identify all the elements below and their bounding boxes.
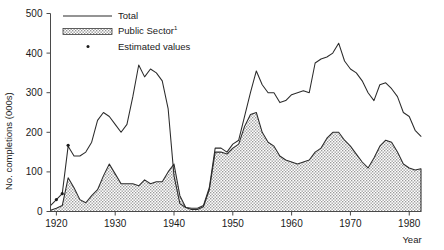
y-axis-tick-label: 0 xyxy=(37,206,43,217)
estimated-value-dot xyxy=(61,192,64,195)
x-axis-tick-label: 1960 xyxy=(280,218,303,229)
y-axis-title: No. completions (000s) xyxy=(3,92,14,190)
x-axis-tick-label: 1950 xyxy=(222,218,245,229)
x-axis-tick-label: 1920 xyxy=(45,218,68,229)
plot-area xyxy=(51,43,422,211)
x-axis-tick-label: 1930 xyxy=(104,218,127,229)
y-axis-tick-label: 200 xyxy=(26,127,43,138)
public-sector-area xyxy=(51,113,422,212)
housing-completions-chart: 0100200300400500 19201930194019501960197… xyxy=(0,0,444,250)
estimated-value-dot xyxy=(55,198,58,201)
estimated-value-dot xyxy=(67,144,70,147)
legend-label-estimated-values: Estimated values xyxy=(118,41,191,52)
chart-container: 0100200300400500 19201930194019501960197… xyxy=(0,0,444,250)
x-axis-tick-label: 1940 xyxy=(163,218,186,229)
y-axis-tick-label: 100 xyxy=(26,166,43,177)
y-axis-tick-labels: 0100200300400500 xyxy=(26,8,43,217)
x-axis-ticks xyxy=(56,212,409,216)
legend-label-total: Total xyxy=(118,10,138,21)
legend-label-public-sector: Public Sector1 xyxy=(118,25,178,36)
y-axis-ticks xyxy=(47,14,51,212)
x-axis-tick-label: 1980 xyxy=(398,218,421,229)
x-axis-tick-labels: 1920193019401950196019701980 xyxy=(45,218,421,229)
x-axis-title: Year xyxy=(402,234,421,245)
y-axis-tick-label: 400 xyxy=(26,48,43,59)
x-axis-tick-label: 1970 xyxy=(339,218,362,229)
y-axis-tick-label: 500 xyxy=(26,8,43,19)
legend-swatch-public-sector-hatch xyxy=(63,29,112,35)
y-axis-tick-label: 300 xyxy=(26,87,43,98)
chart-legend: Total Public Sector1 Estimated values xyxy=(63,10,191,52)
legend-swatch-estimated-dot xyxy=(87,45,90,48)
